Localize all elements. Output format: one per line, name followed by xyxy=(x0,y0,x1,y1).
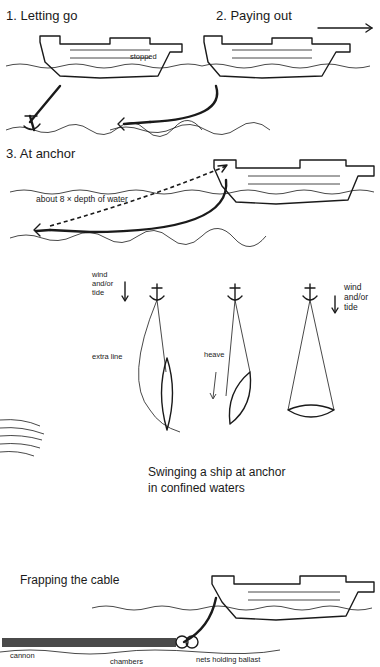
ship-hull-at-anchor xyxy=(214,160,374,204)
panel-title-letting-go: 1. Letting go xyxy=(6,8,78,23)
cannon-label: cannon xyxy=(10,651,35,660)
chambers-label: chambers xyxy=(110,657,143,666)
nets-label: nets holding ballast xyxy=(196,655,260,664)
water-line-1 xyxy=(6,64,202,68)
ship-hull-paying-out xyxy=(204,36,350,78)
anchor-cable-2 xyxy=(150,86,217,122)
stopped-label: stopped xyxy=(130,52,157,61)
extra-line-2 xyxy=(226,300,235,396)
anchor-icon-2 xyxy=(118,118,150,130)
partial-log-pile xyxy=(0,420,44,456)
water-line-2 xyxy=(202,64,370,68)
anchor-icon-swing-1 xyxy=(150,284,164,300)
anchor-icon-3 xyxy=(34,224,50,236)
anchor-cable-3 xyxy=(50,180,226,232)
water-line-4 xyxy=(92,606,372,610)
anchor-icon-swing-3 xyxy=(303,284,317,300)
anchor-cable-4 xyxy=(184,598,216,642)
panel-title-frapping: Frapping the cable xyxy=(20,573,119,587)
riding-cable-2 xyxy=(235,300,250,372)
ship-hull-frapping xyxy=(212,576,374,620)
anchor-icon-swing-2 xyxy=(228,284,242,300)
panel-title-at-anchor: 3. At anchor xyxy=(6,146,75,161)
diagram-artwork xyxy=(0,0,380,667)
swinging-caption-line1: Swinging a ship at anchor xyxy=(148,465,285,479)
ship-outline-swing-1 xyxy=(162,358,173,430)
wind-tide-label-left: wind and/or tide xyxy=(92,270,113,297)
panel-title-paying-out: 2. Paying out xyxy=(216,8,292,23)
ship-outline-swing-2 xyxy=(229,372,250,424)
swinging-caption-line2: in confined waters xyxy=(148,481,245,495)
ship-hull-letting-go xyxy=(40,36,182,78)
seabed-ballast-row xyxy=(0,636,280,654)
heave-label: heave xyxy=(204,350,224,359)
bridle-cables xyxy=(288,300,334,410)
wind-tide-label-right: wind and/or tide xyxy=(344,282,368,312)
extra-line-label: extra line xyxy=(92,352,122,361)
riding-cable-1 xyxy=(157,300,166,372)
ship-outline-swing-3 xyxy=(288,405,334,417)
scope-label: about 8 × depth of water xyxy=(36,194,128,204)
